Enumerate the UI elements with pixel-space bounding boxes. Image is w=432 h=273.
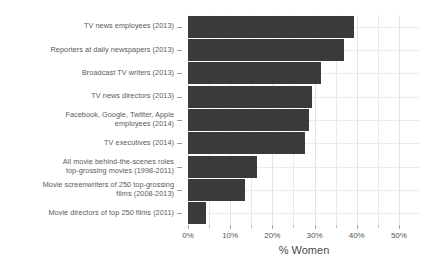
x-tick-label: 0% — [168, 231, 208, 240]
x-tick-minor — [336, 225, 337, 228]
category-tick — [177, 50, 182, 51]
plot-area — [188, 15, 420, 225]
category-tick — [177, 190, 182, 191]
x-tick-label: 40% — [337, 231, 377, 240]
x-axis-title: % Women — [188, 244, 420, 256]
category-label-line: TV news directors (2013) — [0, 92, 174, 101]
category-label-line: Movie directors of top 250 films (2011) — [0, 209, 174, 218]
bar — [188, 16, 354, 38]
category-label: TV news directors (2013) — [0, 92, 174, 101]
x-tick-minor — [378, 225, 379, 228]
bar — [188, 39, 344, 61]
category-label-line: employees (2014) — [0, 120, 174, 129]
gridline-horizontal — [188, 213, 420, 214]
x-tick-minor — [251, 225, 252, 228]
category-label: Reporters at daily newspapers (2013) — [0, 46, 174, 55]
bar — [188, 179, 245, 201]
category-label-line: Reporters at daily newspapers (2013) — [0, 46, 174, 55]
x-axis: % Women 0%10%20%30%40%50% — [188, 225, 420, 273]
bar-chart: TV news employees (2013)Reporters at dai… — [0, 0, 432, 273]
category-label: Facebook, Google, Twitter, Appleemployee… — [0, 111, 174, 128]
category-label-line: top-grossing movies (1998-2011) — [0, 167, 174, 176]
category-label: Movie directors of top 250 films (2011) — [0, 209, 174, 218]
category-label: All movie behind-the-scenes rolestop-gro… — [0, 158, 174, 175]
category-tick — [177, 167, 182, 168]
x-tick-minor — [209, 225, 210, 228]
bar — [188, 132, 305, 154]
x-tick-label: 50% — [379, 231, 419, 240]
category-label-line: TV news employees (2013) — [0, 22, 174, 31]
category-tick — [177, 143, 182, 144]
x-tick-label: 30% — [295, 231, 335, 240]
x-tick — [357, 225, 358, 229]
category-tick — [177, 27, 182, 28]
category-label-line: films (2008-2013) — [0, 190, 174, 199]
x-tick — [188, 225, 189, 229]
category-axis: TV news employees (2013)Reporters at dai… — [0, 15, 182, 225]
category-label: Movie screenwriters of 250 top-grossingf… — [0, 181, 174, 198]
category-tick — [177, 73, 182, 74]
category-tick — [177, 97, 182, 98]
x-tick — [272, 225, 273, 229]
category-label: TV news employees (2013) — [0, 22, 174, 31]
category-label-line: TV executives (2014) — [0, 139, 174, 148]
x-tick-label: 10% — [210, 231, 250, 240]
category-tick — [177, 213, 182, 214]
category-label: TV executives (2014) — [0, 139, 174, 148]
bar — [188, 156, 257, 178]
bar — [188, 109, 309, 131]
bar — [188, 86, 312, 108]
bar — [188, 202, 206, 224]
category-label-line: Broadcast TV writers (2013) — [0, 69, 174, 78]
category-label: Broadcast TV writers (2013) — [0, 69, 174, 78]
x-tick — [315, 225, 316, 229]
bar — [188, 62, 321, 84]
x-tick — [399, 225, 400, 229]
x-tick-label: 20% — [252, 231, 292, 240]
x-tick — [230, 225, 231, 229]
category-tick — [177, 120, 182, 121]
x-tick-minor — [293, 225, 294, 228]
